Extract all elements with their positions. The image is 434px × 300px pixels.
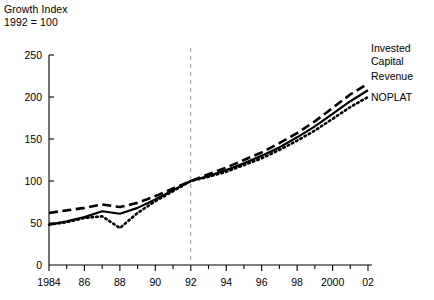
series-group bbox=[49, 84, 368, 228]
legend-label-invested-capital-line2: Capital bbox=[371, 55, 404, 67]
legend-label-noplat: NOPLAT bbox=[371, 91, 413, 103]
x-tick-label: 02 bbox=[362, 276, 374, 288]
legend-label-invested-capital-line1: Invested bbox=[371, 42, 411, 54]
y-tick-label: 50 bbox=[30, 217, 42, 229]
plot-area: 050100150200250 198486889092949698200002… bbox=[0, 0, 434, 300]
x-tick-label: 92 bbox=[185, 276, 197, 288]
x-tick-label: 1984 bbox=[37, 276, 61, 288]
x-tick-label: 86 bbox=[79, 276, 91, 288]
legend-label-revenue: Revenue bbox=[371, 70, 413, 82]
y-tick-label: 100 bbox=[24, 175, 42, 187]
x-tick-label: 98 bbox=[291, 276, 303, 288]
x-tick-label: 96 bbox=[256, 276, 268, 288]
x-tick-label: 88 bbox=[114, 276, 126, 288]
x-tick-label: 2000 bbox=[321, 276, 345, 288]
series-legend-group: Invested Capital Revenue NOPLAT bbox=[371, 42, 413, 103]
y-tick-label: 200 bbox=[24, 91, 42, 103]
x-axis-ticks: 198486889092949698200002 bbox=[37, 265, 374, 288]
y-tick-label: 250 bbox=[24, 49, 42, 61]
growth-index-chart: Growth Index1992 = 100 050100150200250 1… bbox=[0, 0, 434, 300]
y-axis-ticks: 050100150200250 bbox=[24, 49, 54, 271]
series-line-noplat bbox=[49, 97, 368, 228]
x-tick-label: 90 bbox=[149, 276, 161, 288]
series-line-invested-capital bbox=[49, 84, 368, 213]
y-tick-label: 0 bbox=[36, 259, 42, 271]
y-tick-label: 150 bbox=[24, 133, 42, 145]
x-tick-label: 94 bbox=[220, 276, 232, 288]
